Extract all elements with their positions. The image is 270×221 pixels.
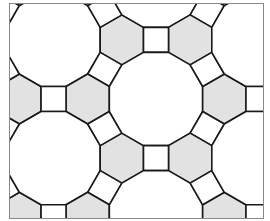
hexagon-tile (0, 15, 7, 65)
dodecagon-tile (7, 0, 100, 87)
dodecagon-tile (7, 112, 100, 205)
tile-group (0, 0, 270, 221)
square-tile (144, 146, 169, 171)
square-tile (144, 27, 169, 52)
dodecagon-tile (109, 52, 202, 145)
tiling-svg (0, 0, 270, 221)
square-tile (246, 87, 270, 112)
hexagon-tile (0, 133, 7, 183)
tiling-diagram (0, 0, 270, 221)
square-tile (41, 87, 66, 112)
